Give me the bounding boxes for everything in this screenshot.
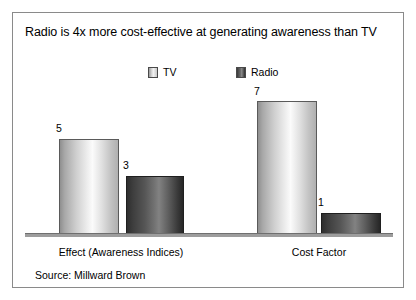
chart-frame: Radio is 4x more cost-effective at gener… [12, 12, 404, 288]
bar-tv-cost[interactable] [257, 101, 317, 234]
bar-radio-cost[interactable] [321, 213, 381, 234]
bar-value-tv-cost: 7 [237, 85, 277, 97]
bar-tv-effect[interactable] [59, 139, 119, 234]
bar-value-radio-cost: 1 [301, 196, 341, 208]
category-label-cost-factor: Cost Factor [239, 246, 399, 258]
source-note: Source: Millward Brown [35, 269, 145, 281]
category-label-effect: Effect (Awareness Indices) [41, 246, 201, 258]
axis-baseline [25, 233, 393, 237]
bar-value-tv-effect: 5 [39, 122, 79, 134]
bar-value-radio-effect: 3 [106, 159, 146, 171]
plot-area: 5 3 7 1 Effect (Awareness Indices) Cost … [13, 13, 404, 288]
bar-radio-effect[interactable] [126, 176, 184, 234]
